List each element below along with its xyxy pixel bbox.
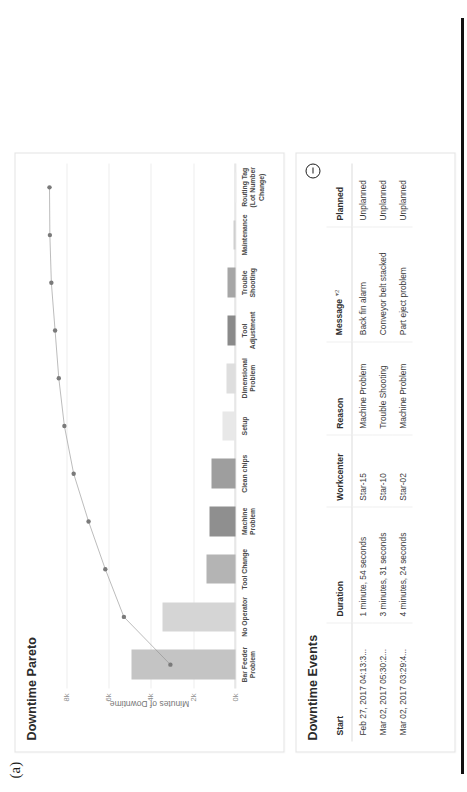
cell-workcenter: Star-15 bbox=[351, 435, 372, 507]
category-label: No Operator bbox=[240, 592, 248, 642]
table-row[interactable]: Mar 02, 2017 03:29:4...4 minutes, 24 sec… bbox=[392, 163, 412, 741]
plot-area: 0k2k4k6k8k Bar Feeder ProblemNo Operator… bbox=[49, 163, 235, 688]
column-header-label: Reason bbox=[334, 397, 344, 428]
y-tick-label: 4k bbox=[146, 693, 155, 701]
column-header-label: Start bbox=[334, 715, 344, 735]
category-label: Tool Change bbox=[240, 544, 248, 594]
column-header-label: Duration bbox=[334, 581, 344, 616]
cell-duration: 3 minutes, 31 seconds bbox=[372, 507, 392, 623]
table-body: Feb 27, 2017 04:13:3...1 minute, 54 seco… bbox=[351, 163, 412, 741]
category-label: Bar Feeder Problem bbox=[240, 639, 257, 689]
cell-message: Part eject problem bbox=[392, 226, 412, 341]
cell-start: Mar 02, 2017 05:30:2... bbox=[372, 622, 392, 741]
category-label: Dimensional Problem bbox=[240, 353, 257, 403]
cell-duration: 1 minute, 54 seconds bbox=[351, 507, 372, 623]
cell-duration: 4 minutes, 24 seconds bbox=[392, 507, 412, 623]
column-header-reason[interactable]: Reason bbox=[326, 341, 351, 435]
table-row[interactable]: Feb 27, 2017 04:13:3...1 minute, 54 seco… bbox=[351, 163, 372, 741]
cumulative-marker[interactable] bbox=[103, 566, 107, 570]
category-label: Maintenance bbox=[240, 210, 248, 260]
cell-message: Conveyor belt stacked bbox=[372, 226, 392, 341]
minus-circle-icon[interactable] bbox=[305, 163, 320, 178]
y-tick-label: 2k bbox=[188, 693, 197, 701]
downtime-pareto-card: Downtime Pareto Minutes of Downtime 0k2k… bbox=[14, 152, 284, 752]
cumulative-marker[interactable] bbox=[86, 519, 90, 523]
cell-reason: Machine Problem bbox=[392, 341, 412, 435]
cumulative-marker[interactable] bbox=[47, 185, 51, 189]
figure-label: (a) bbox=[6, 761, 23, 778]
cumulative-marker[interactable] bbox=[121, 614, 125, 618]
cumulative-marker[interactable] bbox=[52, 328, 56, 332]
cumulative-marker[interactable] bbox=[168, 662, 172, 666]
column-header-label: Workcenter bbox=[334, 453, 344, 500]
category-label: Setup bbox=[240, 401, 248, 451]
page-edge-rule bbox=[461, 18, 464, 774]
cell-reason: Machine Problem bbox=[351, 341, 372, 435]
category-label: Routing Tag (Lot Number Change) bbox=[240, 162, 265, 212]
y-tick-label: 6k bbox=[104, 693, 113, 701]
table-row[interactable]: Mar 02, 2017 05:30:2...3 minutes, 31 sec… bbox=[372, 163, 392, 741]
column-header-message[interactable]: Message▾2 bbox=[326, 226, 351, 341]
cell-planned: Unplanned bbox=[392, 163, 412, 226]
cell-reason: Trouble Shooting bbox=[372, 341, 392, 435]
y-tick-label: 0k bbox=[231, 693, 240, 701]
sort-indicator: ▾2 bbox=[332, 289, 339, 298]
cumulative-marker[interactable] bbox=[62, 423, 66, 427]
cell-workcenter: Star-10 bbox=[372, 435, 392, 507]
column-header-workcenter[interactable]: Workcenter bbox=[326, 435, 351, 507]
rotated-page-wrapper: (a) Downtime Pareto Minutes of Downtime … bbox=[0, 0, 467, 792]
table-title: Downtime Events bbox=[305, 634, 319, 740]
category-label: Machine Problem bbox=[240, 496, 257, 546]
column-header-label: Planned bbox=[334, 187, 344, 220]
cumulative-markers bbox=[49, 163, 235, 688]
downtime-events-table: StartDurationWorkcenterReasonMessage▾2Pl… bbox=[326, 163, 412, 741]
downtime-events-card: Downtime Events StartDurationWorkcenterR… bbox=[295, 152, 455, 752]
category-label: Clean chips bbox=[240, 448, 248, 498]
y-tick-label: 8k bbox=[61, 693, 70, 701]
cell-start: Mar 02, 2017 03:29:4... bbox=[392, 622, 412, 741]
column-header-label: Message bbox=[334, 298, 344, 334]
cell-planned: Unplanned bbox=[372, 163, 392, 226]
cell-workcenter: Star-02 bbox=[392, 435, 412, 507]
cell-message: Back fin alarm bbox=[351, 226, 372, 341]
cumulative-marker[interactable] bbox=[49, 280, 53, 284]
column-header-planned[interactable]: Planned bbox=[326, 163, 351, 226]
column-header-start[interactable]: Start bbox=[326, 622, 351, 741]
dashboard-page: (a) Downtime Pareto Minutes of Downtime … bbox=[0, 0, 467, 792]
category-label: Trouble Shooting bbox=[240, 257, 257, 307]
table-header-row: StartDurationWorkcenterReasonMessage▾2Pl… bbox=[326, 163, 351, 741]
cell-planned: Unplanned bbox=[351, 163, 372, 226]
cumulative-marker[interactable] bbox=[71, 471, 75, 475]
column-header-duration[interactable]: Duration bbox=[326, 507, 351, 623]
cell-start: Feb 27, 2017 04:13:3... bbox=[351, 622, 372, 741]
category-label: Tool Adjustment bbox=[240, 305, 257, 355]
cumulative-marker[interactable] bbox=[47, 232, 51, 236]
cumulative-marker[interactable] bbox=[56, 376, 60, 380]
chart-title: Downtime Pareto bbox=[24, 636, 38, 740]
